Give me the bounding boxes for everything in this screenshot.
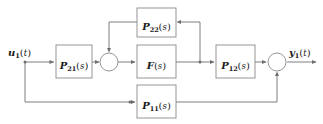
block-p21[interactable] — [56, 45, 92, 78]
arrow-to-p22-input — [177, 20, 182, 24]
block-p12[interactable] — [216, 45, 255, 78]
block-p22[interactable] — [137, 8, 176, 37]
summing-node-inner[interactable] — [100, 53, 118, 71]
arrow-p22-to-sum-inner — [107, 48, 111, 53]
block-diagram: u1(t) y1(t) P21(s) F(s) P22(s) P12(s) P1… — [0, 0, 323, 124]
wire-tap-to-p22-input — [178, 22, 200, 62]
arrow-output — [312, 60, 317, 64]
arrow-sum-inner-to-f — [131, 60, 136, 64]
arrow-input-to-p21 — [50, 60, 55, 64]
wire-p22-to-sum-inner — [109, 22, 137, 51]
summing-node-output[interactable] — [268, 53, 286, 71]
arrow-to-p11 — [131, 100, 136, 104]
diagram-canvas — [0, 0, 323, 124]
arrow-p12-to-sum-output — [262, 60, 267, 64]
block-p11[interactable] — [137, 85, 176, 118]
arrow-p11-to-sum-output — [275, 72, 279, 77]
arrow-f-to-p12 — [210, 60, 215, 64]
arrow-p21-to-sum-inner — [95, 60, 100, 64]
block-f[interactable] — [137, 45, 176, 78]
junction-dot-p11-input — [129, 101, 132, 104]
